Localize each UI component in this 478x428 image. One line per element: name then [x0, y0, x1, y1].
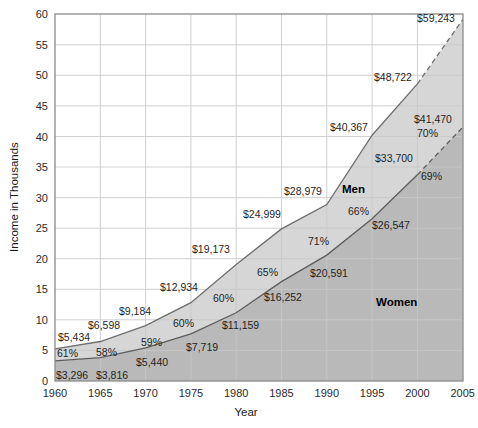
- ratio-label-1975: 60%: [173, 317, 194, 329]
- y-tick-5: 5: [42, 344, 48, 356]
- y-tick-45: 45: [36, 100, 48, 112]
- men-label-2005: $59,243: [417, 12, 455, 24]
- ratio-label-1995: 66%: [348, 205, 369, 217]
- y-tick-30: 30: [36, 192, 48, 204]
- ratio-label-1980: 60%: [213, 292, 234, 304]
- women-label-1985: $16,252: [264, 291, 302, 303]
- ratio-label-1965: 58%: [96, 346, 117, 358]
- x-tick-2000: 2000: [405, 387, 429, 399]
- women-label-2000: $33,700: [375, 152, 413, 164]
- men-band-label: Men: [342, 183, 365, 195]
- ratio-label-1970: 59%: [141, 336, 162, 348]
- y-tick-0: 0: [42, 375, 48, 387]
- x-tick-1985: 1985: [269, 387, 293, 399]
- x-tick-1970: 1970: [133, 387, 157, 399]
- ratio-label-1985: 65%: [257, 266, 278, 278]
- ratio-label-1990: 71%: [308, 235, 329, 247]
- men-label-1965: $6,598: [88, 319, 120, 331]
- y-tick-15: 15: [36, 283, 48, 295]
- women-label-1980: $11,159: [222, 319, 259, 331]
- ratio-label-2005: 70%: [417, 127, 438, 139]
- x-tick-1965: 1965: [88, 387, 112, 399]
- x-tick-1995: 1995: [360, 387, 384, 399]
- men-label-1960: $5,434: [58, 331, 90, 343]
- women-label-1970: $5,440: [136, 356, 168, 368]
- women-label-1960: $3,296: [56, 369, 88, 381]
- men-label-1995: $40,367: [330, 121, 368, 133]
- y-tick-20: 20: [36, 253, 48, 265]
- women-label-1975: $7,719: [186, 341, 218, 353]
- chart-container: 0 5 10 15 20 25 30 35 40 45 50 55 60 Inc…: [0, 0, 478, 428]
- y-tick-10: 10: [36, 314, 48, 326]
- men-label-1990: $28,979: [284, 185, 322, 197]
- x-tick-1960: 1960: [43, 387, 67, 399]
- men-label-1985: $24,999: [243, 208, 281, 220]
- ratio-label-1960: 61%: [57, 347, 78, 359]
- y-tick-60: 60: [36, 8, 48, 20]
- y-tick-40: 40: [36, 131, 48, 143]
- x-tick-2005: 2005: [450, 387, 474, 399]
- women-label-1990: $20,591: [310, 267, 348, 279]
- women-label-1965: $3,816: [96, 369, 128, 381]
- y-tick-50: 50: [36, 69, 48, 81]
- income-gap-area-chart: 0 5 10 15 20 25 30 35 40 45 50 55 60 Inc…: [0, 0, 478, 428]
- y-tick-35: 35: [36, 161, 48, 173]
- women-label-1995: $26,547: [372, 219, 410, 231]
- x-axis-title: Year: [234, 406, 257, 418]
- y-axis-title: Income in Thousands: [8, 142, 20, 252]
- women-label-2005: $41,470: [414, 113, 452, 125]
- ratio-label-2000: 69%: [421, 170, 442, 182]
- y-tick-55: 55: [36, 39, 48, 51]
- men-label-1980: $19,173: [192, 243, 230, 255]
- x-tick-1980: 1980: [224, 387, 248, 399]
- men-label-2000: $48,722: [374, 71, 412, 83]
- men-label-1975: $12,934: [160, 281, 198, 293]
- men-label-1970: $9,184: [119, 305, 151, 317]
- women-band-label: Women: [376, 296, 417, 308]
- x-tick-1990: 1990: [315, 387, 339, 399]
- x-tick-1975: 1975: [179, 387, 203, 399]
- y-tick-25: 25: [36, 222, 48, 234]
